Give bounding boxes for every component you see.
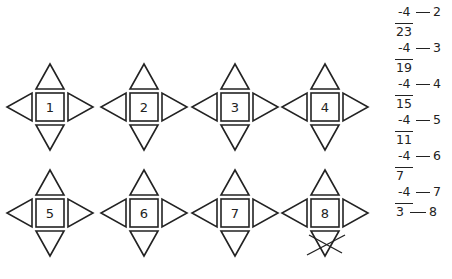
running-result: 15 (396, 96, 412, 111)
subtract-four: -4 (398, 4, 410, 19)
triangle-up (36, 170, 64, 195)
triangle-down (36, 125, 64, 150)
triangle-left (7, 199, 32, 227)
figure-label: 3 (231, 100, 239, 115)
step-number: 7 (433, 184, 441, 199)
triangle-down (221, 125, 249, 150)
running-result: 3 (396, 204, 404, 219)
figure-4: 4 (282, 64, 368, 150)
figure-1: 1 (7, 64, 93, 150)
running-result: 23 (396, 24, 412, 39)
figure-label: 7 (231, 206, 239, 221)
figure-2: 2 (101, 64, 187, 150)
figure-label: 4 (321, 100, 329, 115)
triangle-down (221, 231, 249, 256)
subtract-four: -4 (398, 40, 410, 55)
step-connector (416, 156, 430, 157)
step-number: 2 (433, 4, 441, 19)
step-connector (416, 120, 430, 121)
triangle-left (101, 93, 126, 121)
triangle-up (221, 170, 249, 195)
triangle-right (253, 93, 278, 121)
triangle-up (311, 170, 339, 195)
step-connector (416, 12, 430, 13)
figures-canvas: 12345678 (0, 0, 452, 279)
triangle-up (311, 64, 339, 89)
triangle-down (36, 231, 64, 256)
subtract-four: -4 (398, 112, 410, 127)
triangle-left (192, 93, 217, 121)
figure-label: 6 (140, 206, 148, 221)
triangle-up (221, 64, 249, 89)
subtract-four: -4 (398, 148, 410, 163)
triangle-right (68, 93, 93, 121)
triangle-right (68, 199, 93, 227)
triangle-left (192, 199, 217, 227)
running-result: 7 (396, 168, 404, 183)
triangle-up (36, 64, 64, 89)
triangle-left (282, 93, 307, 121)
running-result: 11 (396, 132, 412, 147)
figure-8: 8 (282, 170, 368, 256)
step-number: 4 (433, 76, 441, 91)
triangle-left (282, 199, 307, 227)
figure-label: 8 (321, 206, 329, 221)
figure-7: 7 (192, 170, 278, 256)
step-connector (416, 84, 430, 85)
figure-3: 3 (192, 64, 278, 150)
step-number: 3 (433, 40, 441, 55)
triangle-down (130, 231, 158, 256)
triangle-right (343, 93, 368, 121)
triangle-right (343, 199, 368, 227)
triangle-right (253, 199, 278, 227)
triangle-right (162, 93, 187, 121)
triangle-down (130, 125, 158, 150)
subtract-four: -4 (398, 184, 410, 199)
step-connector (410, 212, 426, 213)
triangle-left (7, 93, 32, 121)
triangle-down (311, 125, 339, 150)
triangle-up (130, 170, 158, 195)
triangle-up (130, 64, 158, 89)
figure-label: 1 (46, 100, 54, 115)
figure-6: 6 (101, 170, 187, 256)
step-connector (416, 48, 430, 49)
step-connector (416, 192, 430, 193)
step-number: 5 (433, 112, 441, 127)
figure-label: 2 (140, 100, 148, 115)
figure-label: 5 (46, 206, 54, 221)
triangle-right (162, 199, 187, 227)
running-result: 19 (396, 60, 412, 75)
step-number: 6 (433, 148, 441, 163)
subtract-four: -4 (398, 76, 410, 91)
figure-5: 5 (7, 170, 93, 256)
triangle-left (101, 199, 126, 227)
final-step-number: 8 (429, 204, 437, 219)
